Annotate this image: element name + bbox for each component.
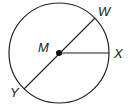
center-point <box>56 50 62 56</box>
label-w: W <box>98 4 112 19</box>
label-y: Y <box>10 85 20 100</box>
label-x: X <box>113 46 124 61</box>
label-m: M <box>38 40 49 55</box>
circle-diagram: M W X Y <box>0 0 128 110</box>
